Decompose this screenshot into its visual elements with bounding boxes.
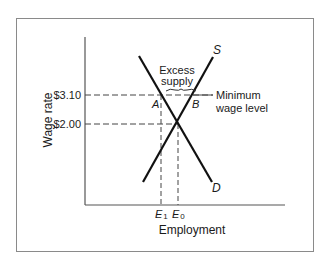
x-axis-label: Employment	[159, 223, 226, 237]
excess-supply-brace	[166, 89, 196, 91]
point-a-label: A	[151, 98, 159, 110]
wage-diagram: $3.10 $2.00 Wage rate E1 E0 Employment S…	[0, 0, 332, 268]
x-tick-e1: E1	[155, 208, 168, 221]
y-tick-2-00: $2.00	[53, 118, 81, 130]
min-wage-label-line2: wage level	[215, 102, 268, 114]
y-tick-3-10: $3.10	[53, 89, 81, 101]
excess-supply-label-line2: supply	[161, 75, 193, 87]
x-tick-e0: E0	[172, 208, 185, 221]
min-wage-label-line1: Minimum	[216, 89, 261, 101]
demand-curve-label: D	[212, 181, 221, 195]
y-axis-label: Wage rate	[41, 92, 55, 147]
supply-curve-label: S	[213, 43, 221, 57]
point-b-label: B	[192, 98, 199, 110]
